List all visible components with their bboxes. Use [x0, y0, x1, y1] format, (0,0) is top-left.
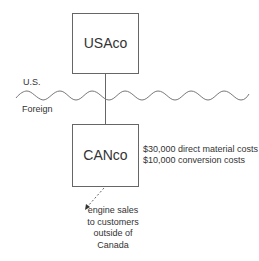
- sales-note-line: to customers: [78, 217, 148, 229]
- us-side-label: U.S.: [23, 77, 41, 87]
- border-wave: [16, 91, 249, 100]
- usaco-label: USAco: [72, 35, 139, 51]
- canco-label: CANco: [72, 147, 139, 163]
- cost-details: $30,000 direct material costs $10,000 co…: [143, 144, 258, 165]
- conversion-cost: $10,000 conversion costs: [143, 155, 258, 166]
- sales-note: engine sales to customers outside of Can…: [78, 205, 148, 251]
- sales-arrow-line: [88, 188, 104, 206]
- sales-note-line: Canada: [78, 240, 148, 252]
- sales-note-line: outside of: [78, 228, 148, 240]
- direct-material-cost: $30,000 direct material costs: [143, 144, 258, 155]
- foreign-side-label: Foreign: [22, 104, 53, 114]
- diagram-canvas: USAco CANco U.S. Foreign $30,000 direct …: [0, 0, 259, 261]
- sales-note-line: engine sales: [78, 205, 148, 217]
